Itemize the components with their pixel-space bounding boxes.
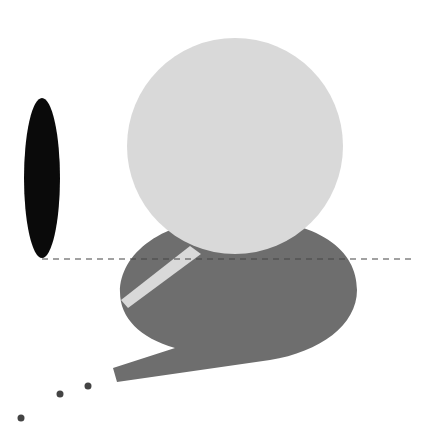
dot bbox=[18, 415, 25, 422]
dot bbox=[85, 383, 92, 390]
dot bbox=[57, 391, 64, 398]
illustration-canvas bbox=[0, 0, 428, 443]
black-vertical-ellipse bbox=[24, 98, 60, 258]
light-gray-circle bbox=[127, 38, 343, 254]
